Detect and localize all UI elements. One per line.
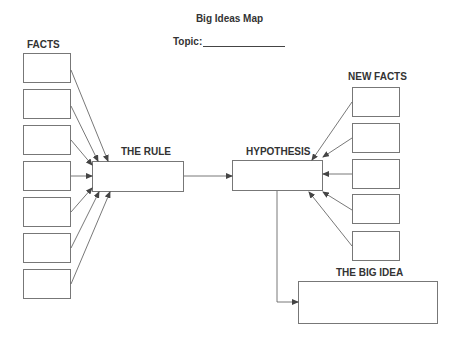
connector-arrows — [0, 0, 459, 340]
